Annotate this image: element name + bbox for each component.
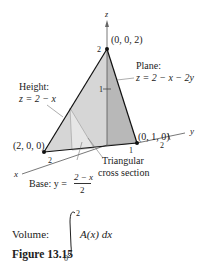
base-denominator: 2: [80, 185, 85, 196]
x-tick-2: 2: [48, 155, 52, 166]
z-tick-1: 1: [99, 84, 103, 95]
base-label: Base: y =: [29, 178, 67, 189]
point-y-intercept: (0, 1, 0): [138, 131, 170, 142]
base-numerator: 2 − x: [74, 172, 93, 183]
height-label: Height:: [19, 81, 49, 92]
integral-upper-limit: 2: [76, 208, 80, 219]
plane-equation: z = 2 − x − 2y: [136, 72, 194, 83]
z-axis-label: z: [105, 9, 108, 20]
x-axis-label: x: [14, 169, 18, 180]
point-x-intercept: (2, 0, 0): [13, 140, 45, 151]
height-equation: z = 2 − x: [19, 93, 56, 104]
z-tick-2: 2: [97, 44, 101, 55]
tetrahedron-diagram: [0, 0, 207, 267]
integrand: A(x) dx: [80, 228, 112, 240]
point-top: (0, 0, 2): [111, 34, 143, 45]
y-axis-label: y: [190, 126, 194, 137]
fraction-bar: [74, 183, 91, 184]
cross-section-label-1: Triangular: [102, 155, 144, 166]
plane-label: Plane:: [136, 60, 161, 71]
figure-caption: Figure 13.15: [12, 248, 73, 260]
cross-section-label-2: cross section: [98, 167, 149, 178]
volume-label: Volume:: [12, 228, 49, 240]
